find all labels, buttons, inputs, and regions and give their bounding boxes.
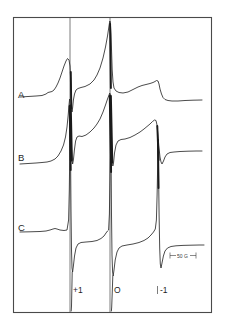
trace-label-b: B [18,152,25,163]
spectrum-plot: A B C +1 O -1 50 G [0,0,225,335]
scale-bar: 50 G [170,253,196,260]
axis-label-zero: O [114,285,121,295]
trace-c-zero-stroke [111,110,112,172]
trace-label-c: C [18,222,25,233]
axis-label-minus-one: -1 [160,285,168,295]
trace-label-a: A [18,89,25,100]
axis-label-plus-one: +1 [73,285,83,295]
trace-c-zero-tail [111,276,112,311]
figure-root: A B C +1 O -1 50 G [0,0,225,335]
scale-bar-label: 50 G [177,253,188,259]
trace-c-minusone-stroke [158,140,159,188]
trace-c-plusone-stroke [70,118,71,170]
trace-a-zero-stroke [110,24,111,88]
trace-a-plusone-stroke [71,72,72,108]
